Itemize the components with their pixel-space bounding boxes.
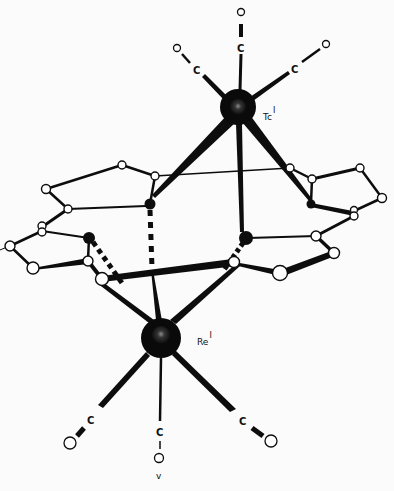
ring-atom xyxy=(356,164,364,172)
oxidation-state: I xyxy=(273,106,275,115)
metal-label-re: ReI xyxy=(197,331,212,347)
metal-atom-tc xyxy=(220,89,256,125)
carbon-label: C xyxy=(239,416,246,427)
ring-atom xyxy=(27,262,39,274)
metal-label-tc: TcI xyxy=(262,106,275,122)
oxidation-state: I xyxy=(209,331,211,340)
oxygen-atom xyxy=(265,435,277,447)
ring-atom xyxy=(38,228,46,236)
ring-atom xyxy=(311,231,321,241)
metal-symbol: Tc xyxy=(262,112,272,122)
ring-atom xyxy=(378,194,387,203)
oxygen-atoms xyxy=(64,9,330,463)
ring-atom xyxy=(308,175,316,183)
ring-bonds-thin xyxy=(0,165,382,268)
carbon-label: C xyxy=(156,427,163,438)
ring-atom xyxy=(64,205,72,213)
svg-text:ReI: ReI xyxy=(197,331,212,347)
nitrogen-atom xyxy=(145,199,156,210)
metal-bonds xyxy=(97,114,312,324)
ring-atom xyxy=(273,266,288,281)
oxygen-atom xyxy=(155,454,164,463)
ring-atom xyxy=(83,256,93,266)
carbon-label: C xyxy=(291,64,298,75)
ring-atom xyxy=(151,172,159,180)
molecular-structure-diagram: C C C C C C TcI ReI v xyxy=(0,0,394,491)
nitrogen-atom xyxy=(307,200,316,209)
ring-atom xyxy=(329,248,340,259)
ring-atom xyxy=(229,257,240,268)
carbon-label: C xyxy=(87,415,94,426)
nitrogen-atom xyxy=(239,231,253,245)
nitrogen-atom xyxy=(83,232,95,244)
metal-symbol: Re xyxy=(197,337,209,347)
ring-atom xyxy=(286,164,294,172)
ring-atom xyxy=(350,212,358,220)
ring-atom xyxy=(96,273,109,286)
ring-atom xyxy=(5,241,15,251)
oxygen-atom xyxy=(64,437,76,449)
oxygen-atom xyxy=(323,41,330,48)
oxygen-atom xyxy=(174,45,181,52)
carbon-labels: C C C C C C xyxy=(87,43,298,438)
ring-bonds-thick xyxy=(33,203,354,282)
svg-text:TcI: TcI xyxy=(262,106,275,122)
ring-atom xyxy=(42,185,51,194)
carbon-label: C xyxy=(237,43,244,54)
carbon-label: C xyxy=(193,65,200,76)
oxygen-atom xyxy=(238,9,245,16)
ring-atom xyxy=(118,161,126,169)
metal-atom-re xyxy=(141,318,181,358)
figure-footer-label: v xyxy=(156,471,162,481)
